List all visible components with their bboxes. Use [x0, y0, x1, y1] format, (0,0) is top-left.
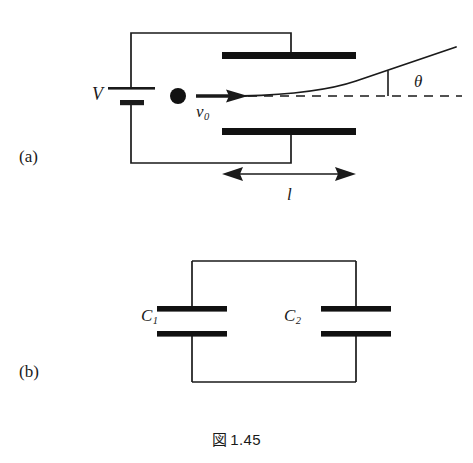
capacitor-c2-subscript: 2	[295, 315, 301, 326]
velocity-arrow	[196, 90, 248, 103]
battery-positive-plate	[108, 87, 155, 90]
panel-a-diagram	[0, 0, 473, 230]
panel-a-label: (a)	[19, 148, 38, 165]
charged-particle	[170, 88, 186, 104]
figure-caption-kanji: 図	[212, 431, 227, 449]
panel-b-diagram	[0, 230, 473, 420]
figure-caption: 図1.45	[0, 428, 473, 449]
capacitor-c2-label: C2	[284, 307, 301, 324]
capacitor-c2-symbol: C	[284, 306, 295, 325]
figure-1-45: (a) (b) V v0 θ l C1 C2 図1.45	[0, 0, 473, 463]
capacitor-c2-plate-bottom	[321, 331, 391, 337]
length-dimension-arrow	[222, 167, 356, 181]
capacitor-c1-label: C1	[141, 307, 158, 324]
capacitor-c1-subscript: 1	[152, 315, 158, 326]
deflection-angle-label: θ	[414, 73, 422, 90]
circuit-wire-top	[131, 33, 291, 88]
figure-caption-number: 1.45	[227, 431, 261, 448]
capacitor-c1-plate-bottom	[157, 331, 227, 337]
initial-velocity-label: v0	[196, 103, 209, 120]
bottom-deflection-plate	[222, 128, 356, 135]
battery-negative-plate	[120, 100, 144, 105]
voltage-source-label: V	[92, 85, 103, 103]
capacitor-c1-symbol: C	[141, 306, 152, 325]
initial-velocity-symbol: v	[196, 102, 204, 121]
initial-velocity-subscript: 0	[204, 111, 210, 122]
capacitor-c2-plate-top	[321, 306, 391, 312]
plate-length-label: l	[287, 186, 292, 203]
capacitor-c1-plate-top	[157, 306, 227, 312]
top-deflection-plate	[222, 52, 356, 59]
panel-b-label: (b)	[19, 363, 39, 380]
